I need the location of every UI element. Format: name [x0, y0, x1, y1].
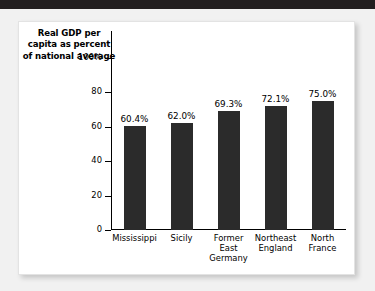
y-axis-tick-label: 80	[42, 87, 102, 96]
bar-value-label: 62.0%	[168, 111, 196, 121]
axis-title-line-2: capita as percent	[21, 39, 117, 50]
y-axis-tick-label: 0	[42, 225, 102, 234]
bar-value-label: 72.1%	[262, 94, 290, 104]
bar[interactable]	[218, 111, 240, 230]
bar[interactable]	[265, 106, 287, 230]
bar[interactable]	[312, 101, 334, 230]
page-top-band	[0, 0, 375, 9]
bar-value-label: 69.3%	[215, 99, 243, 109]
category-label-line: North	[295, 233, 350, 243]
bar-series: 60.4%62.0%69.3%72.1%75.0%	[111, 31, 346, 230]
y-axis-tick-label: 60	[42, 122, 102, 131]
category-label-line: Germany	[201, 253, 256, 263]
x-axis-category-label: NorthFrance	[295, 233, 350, 253]
bar-group[interactable]: 60.4%	[111, 31, 158, 230]
figure-card: Real GDP per capita as percent of nation…	[18, 21, 355, 275]
bar-group[interactable]: 69.3%	[205, 31, 252, 230]
y-axis-tick	[105, 230, 111, 231]
y-axis-tick-label: 40	[42, 156, 102, 165]
bar-value-label: 75.0%	[309, 89, 337, 99]
bar[interactable]	[124, 126, 146, 230]
bar-group[interactable]: 75.0%	[299, 31, 346, 230]
bar[interactable]	[171, 123, 193, 230]
y-axis-tick-label: 20	[42, 191, 102, 200]
y-axis-tick-label: 100%	[42, 53, 102, 62]
bar-group[interactable]: 62.0%	[158, 31, 205, 230]
bar-value-label: 60.4%	[121, 114, 149, 124]
page-root: Real GDP per capita as percent of nation…	[0, 0, 375, 291]
bar-chart: Real GDP per capita as percent of nation…	[19, 22, 356, 276]
axis-title-line-1: Real GDP per	[21, 28, 117, 39]
category-label-line: France	[295, 243, 350, 253]
bar-group[interactable]: 72.1%	[252, 31, 299, 230]
